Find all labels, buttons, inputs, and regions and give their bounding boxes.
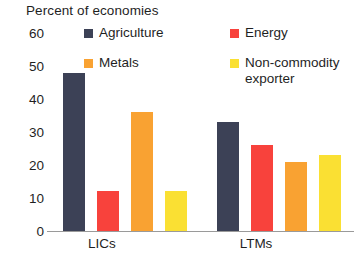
y-axis-tick-label: 20 <box>14 159 44 173</box>
x-axis-category-label: LICs <box>37 236 167 251</box>
bar-chart-figure: Percent of economies Agriculture Energy … <box>0 0 354 255</box>
bar <box>217 122 239 231</box>
y-axis-tick-label: 40 <box>14 93 44 107</box>
plot-area: 6050403020100 <box>47 20 354 232</box>
bar <box>165 191 187 231</box>
bar <box>131 112 153 231</box>
y-axis-tick-label: 30 <box>14 126 44 140</box>
axis-baseline <box>47 231 354 232</box>
bar <box>319 155 341 231</box>
y-axis-tick-label: 10 <box>14 192 44 206</box>
chart-title: Percent of economies <box>26 3 159 18</box>
x-axis-category-label: LTMs <box>191 236 321 251</box>
bar <box>97 191 119 231</box>
bar <box>285 162 307 231</box>
bar <box>251 145 273 231</box>
y-axis-tick-label: 60 <box>14 27 44 41</box>
y-axis-tick-label: 50 <box>14 60 44 74</box>
bar <box>63 73 85 231</box>
